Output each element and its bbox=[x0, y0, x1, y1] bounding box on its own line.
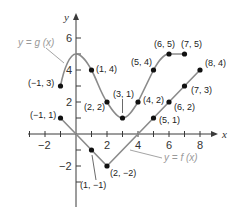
data-point bbox=[182, 51, 187, 56]
y-tick-label: 6 bbox=[66, 32, 72, 44]
g-function-label: y = g (x) bbox=[17, 37, 54, 48]
data-point bbox=[166, 99, 171, 104]
data-point bbox=[58, 83, 63, 88]
data-point bbox=[104, 99, 109, 104]
x-axis-label: x bbox=[221, 128, 227, 140]
point-label: (6, 5) bbox=[154, 39, 175, 49]
data-point bbox=[151, 67, 156, 72]
y-axis-label: y bbox=[63, 11, 69, 23]
f-function-label: y = f (x) bbox=[163, 152, 198, 163]
point-label: (−1, 3) bbox=[28, 78, 54, 88]
point-label: (1, 4) bbox=[96, 64, 117, 74]
point-label: (3, 1) bbox=[113, 89, 134, 99]
y-axis-arrow-icon bbox=[73, 13, 79, 20]
x-tick-label: 2 bbox=[104, 139, 110, 151]
data-point bbox=[120, 115, 125, 120]
point-label: (5, 1) bbox=[159, 115, 180, 125]
point-label: (4, 2) bbox=[143, 95, 164, 105]
data-point bbox=[166, 51, 171, 56]
point-label: (2, −2) bbox=[110, 168, 136, 178]
f-label-leader bbox=[130, 150, 162, 158]
point-label: (1, −1) bbox=[80, 180, 106, 190]
point-label: (5, 4) bbox=[131, 57, 152, 67]
y-tick-label: 2 bbox=[66, 96, 72, 108]
data-point bbox=[197, 67, 202, 72]
y-tick-label: −2 bbox=[59, 160, 72, 172]
data-point bbox=[182, 83, 187, 88]
point-label: (7, 3) bbox=[191, 85, 212, 95]
point-label: (6, 2) bbox=[174, 102, 195, 112]
x-axis-arrow-icon bbox=[211, 131, 218, 137]
point-label: (7, 5) bbox=[181, 39, 202, 49]
x-tick-label: −2 bbox=[38, 139, 51, 151]
function-graph: x y −2 2 4 6 8 6 4 2 −2 bbox=[0, 0, 235, 209]
point-label: (8, 4) bbox=[205, 58, 226, 68]
data-point bbox=[89, 147, 94, 152]
data-point bbox=[104, 163, 109, 168]
x-tick-label: 8 bbox=[197, 139, 203, 151]
g-label-leader bbox=[46, 48, 64, 63]
label-leader bbox=[92, 155, 96, 180]
x-tick-label: 6 bbox=[166, 139, 172, 151]
data-point bbox=[151, 115, 156, 120]
data-point bbox=[135, 99, 140, 104]
data-point bbox=[89, 67, 94, 72]
point-label: (2, 2) bbox=[84, 102, 105, 112]
x-tick-label: 4 bbox=[135, 139, 141, 151]
point-label: (−1, 1) bbox=[30, 110, 56, 120]
data-point bbox=[58, 115, 63, 120]
